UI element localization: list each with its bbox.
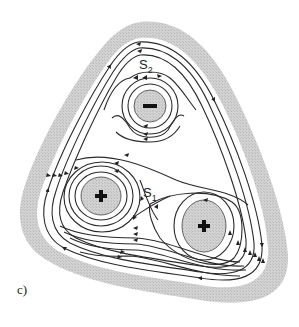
saddle-label-s2: S2 [139, 57, 153, 75]
saddle-subscript: 1 [152, 193, 157, 203]
saddle-name: S [139, 57, 148, 72]
charge-positive-right [182, 200, 226, 252]
field-line-diagram [0, 0, 299, 327]
charge-positive-left [81, 177, 121, 215]
saddle-name: S [143, 185, 152, 200]
saddle-label-s1: S1 [143, 185, 157, 203]
panel-label: c) [17, 282, 27, 298]
saddle-subscript: 2 [148, 65, 153, 75]
charge-negative [134, 90, 166, 122]
